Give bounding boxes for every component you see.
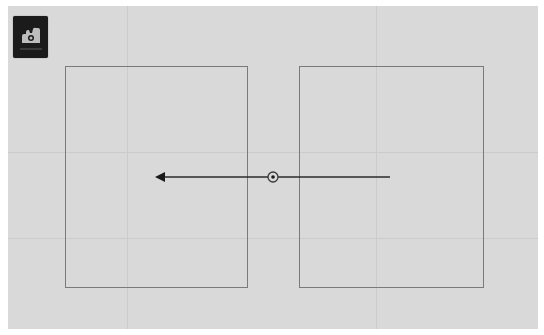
left-frame bbox=[65, 66, 248, 288]
drag-handle[interactable] bbox=[267, 171, 279, 183]
right-frame bbox=[299, 66, 484, 288]
hand-pan-icon bbox=[13, 16, 48, 58]
pan-tool-button[interactable] bbox=[13, 16, 48, 58]
